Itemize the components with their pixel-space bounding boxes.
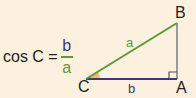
vertex-a-label: A bbox=[176, 79, 187, 97]
side-a-label: a bbox=[126, 35, 133, 50]
right-angle-marker bbox=[169, 72, 177, 79]
vertex-c-label: C bbox=[78, 78, 90, 96]
right-triangle bbox=[0, 0, 196, 98]
side-a-hypotenuse bbox=[86, 23, 177, 79]
vertex-b-label: B bbox=[175, 4, 186, 22]
side-b-label: b bbox=[128, 81, 135, 96]
